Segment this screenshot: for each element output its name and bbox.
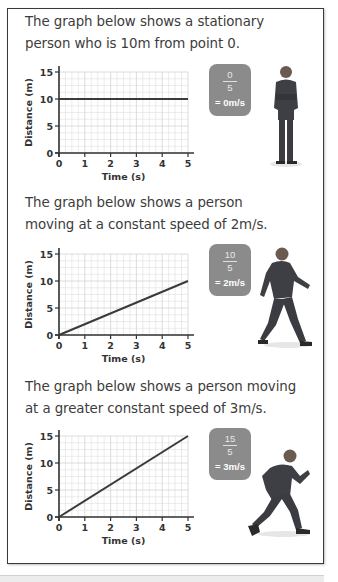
- caption-line: person who is 10m from point 0.: [25, 33, 264, 55]
- caption-line: moving at a constant speed of 2m/s.: [25, 214, 267, 236]
- x-tick-label: 2: [107, 158, 114, 169]
- y-tick-label: 0: [46, 512, 53, 523]
- y-tick-label: 5: [46, 485, 53, 496]
- y-axis-title: Distance (m): [23, 78, 34, 146]
- caption-line: The graph below shows a person moving: [25, 376, 296, 398]
- x-tick-label: 2: [107, 522, 114, 533]
- badge-result: = 2m/s: [209, 277, 251, 288]
- x-axis-title: Time (s): [102, 535, 146, 546]
- x-tick-label: 2: [107, 340, 114, 351]
- y-axis-title: Distance (m): [23, 442, 34, 510]
- badge-result: = 0m/s: [209, 97, 251, 108]
- speed-badge-stationary: 0 5 = 0m/s: [209, 64, 251, 116]
- x-tick-label: 3: [133, 522, 140, 533]
- y-tick-label: 10: [40, 276, 54, 287]
- x-tick-label: 5: [185, 522, 192, 533]
- x-tick-label: 1: [81, 340, 88, 351]
- x-tick-label: 3: [133, 158, 140, 169]
- y-tick-label: 15: [40, 249, 53, 260]
- x-tick-label: 0: [56, 340, 63, 351]
- x-tick-label: 5: [185, 158, 192, 169]
- running-person-icon: [244, 446, 316, 542]
- y-tick-label: 10: [40, 94, 54, 105]
- x-tick-label: 1: [81, 522, 88, 533]
- y-tick-label: 15: [40, 431, 53, 442]
- distance-time-graph-running: 012345051015Time (s)Distance (m): [20, 426, 200, 551]
- caption-line: The graph below shows a person: [25, 192, 267, 214]
- badge-denominator: 5: [209, 83, 251, 93]
- speed-badge-walking: 10 5 = 2m/s: [209, 244, 251, 296]
- y-tick-label: 0: [46, 148, 53, 159]
- x-tick-label: 0: [56, 158, 63, 169]
- y-tick-label: 10: [40, 458, 54, 469]
- caption-line: at a greater constant speed of 3m/s.: [25, 398, 296, 420]
- x-tick-label: 4: [159, 340, 166, 351]
- x-tick-label: 3: [133, 340, 140, 351]
- caption-walking: The graph below shows a person moving at…: [25, 192, 267, 236]
- x-tick-label: 1: [81, 158, 88, 169]
- x-axis-title: Time (s): [102, 171, 146, 182]
- x-tick-label: 5: [185, 340, 192, 351]
- caption-stationary: The graph below shows a stationary perso…: [25, 11, 264, 55]
- badge-numerator: 15: [209, 434, 251, 444]
- distance-time-graph-stationary: 012345051015Time (s)Distance (m): [20, 62, 200, 187]
- standing-person-icon: [266, 64, 306, 168]
- y-tick-label: 5: [46, 303, 53, 314]
- caption-line: The graph below shows a stationary: [25, 11, 264, 33]
- y-tick-label: 15: [40, 67, 53, 78]
- badge-numerator: 10: [209, 250, 251, 260]
- x-tick-label: 0: [56, 522, 63, 533]
- next-panel-edge: [0, 575, 324, 582]
- y-tick-label: 5: [46, 121, 53, 132]
- badge-denominator: 5: [209, 263, 251, 273]
- y-tick-label: 0: [46, 330, 53, 341]
- x-tick-label: 4: [159, 522, 166, 533]
- walking-person-icon: [256, 245, 316, 350]
- x-axis-title: Time (s): [102, 353, 146, 364]
- y-axis-title: Distance (m): [23, 260, 34, 328]
- x-tick-label: 4: [159, 158, 166, 169]
- distance-time-graph-walking: 012345051015Time (s)Distance (m): [20, 244, 200, 369]
- badge-numerator: 0: [209, 70, 251, 80]
- caption-running: The graph below shows a person moving at…: [25, 376, 296, 420]
